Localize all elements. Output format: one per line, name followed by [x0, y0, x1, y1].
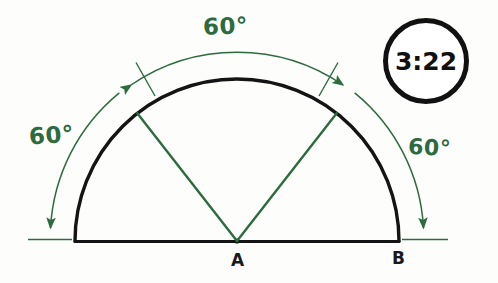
vertex-label-a: A	[231, 250, 244, 270]
clock-badge: 3:22	[383, 18, 469, 104]
angle-label-left: 60°	[28, 120, 75, 149]
semicircle-arc	[75, 79, 399, 241]
outer-arc-right-segment	[355, 93, 424, 228]
left-ray	[137, 113, 237, 241]
angle-label-top: 60°	[203, 12, 249, 40]
diagram-canvas: 60° 60° 60° A B 3:22	[0, 0, 498, 283]
angle-label-right: 60°	[407, 134, 451, 161]
right-ray	[237, 113, 337, 241]
clock-time-text: 3:22	[395, 47, 457, 76]
vertex-label-b: B	[392, 248, 405, 268]
outer-arc-left-segment	[51, 93, 120, 228]
